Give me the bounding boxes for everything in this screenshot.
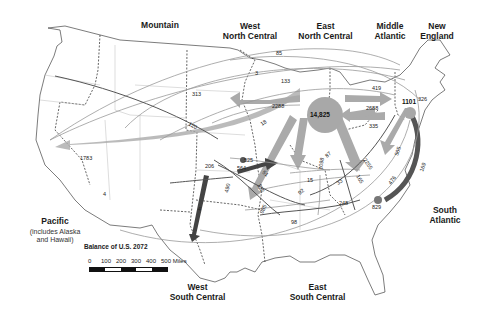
flow-label: 4 [103,191,106,197]
region-label-west-south-central: West South Central [160,282,235,302]
hub-label-ma: 1101 [402,98,416,105]
scale-tick: 100 [101,258,111,264]
scale-bar-segments [89,267,168,272]
flow-label: 133 [281,78,290,84]
minor-flow-lines [50,49,420,243]
region-label-new-england: New England [412,21,462,41]
flow-label: 476 [387,175,397,186]
flow-label: 87 [324,150,333,159]
flow-label: 120 [188,121,199,131]
flow-label: 335 [369,123,378,129]
flow-label: 3 [255,70,258,76]
region-label-east-south-central: East South Central [280,282,355,302]
flow-label: 525 [244,157,253,163]
region-label-mountain: Mountain [130,20,190,30]
region-label-south-atlantic: South Atlantic [420,205,470,225]
region-label-east-north-central: East North Central [288,21,363,41]
region-label-middle-atlantic: Middle Atlantic [365,21,415,41]
flow-label: 326 [418,96,427,102]
hub-label-enc: 14,825 [310,111,330,119]
flow-label: 15 [307,177,313,183]
hub-south-atlantic [374,196,382,204]
flow-label: 2288 [272,103,284,109]
flow-label: 2688 [366,105,378,111]
flow-label: 85 [276,50,282,56]
flow-label: 4 [198,206,201,212]
flow-label: 98 [291,219,297,225]
scale-tick: 0 [88,258,91,264]
ma-to-sa-arc [385,113,418,200]
flow-label: 1098 [317,157,325,170]
flow-label: 2255 [362,157,374,170]
flow-label: 248 [339,200,348,206]
hub-middle-atlantic [404,107,416,119]
flow-label: 419 [372,85,381,91]
scale-bar: 0 100 200 300 400 500 Miles [88,258,228,278]
scale-tick: 200 [116,258,126,264]
hub-label-sa: 829 [372,204,381,210]
region-label-pacific: Pacific [25,216,85,226]
flow-label: 1783 [80,155,92,161]
scale-tick: 400 [146,258,156,264]
flow-label: 505 [393,146,402,157]
flow-label: 313 [192,91,201,97]
scale-tick: 300 [131,258,141,264]
region-label-west-north-central: West North Central [215,21,285,41]
flow-label: 206 [205,163,214,169]
migration-map: 14,825 1101 564 829 1783 2288 2688 326 3… [0,0,477,313]
flow-label: 169 [418,162,427,173]
flow-label: 92 [297,187,306,196]
region-note-pacific: (includes Alaska and Hawaii) [20,228,90,244]
scale-tick: 500 Miles [161,258,187,264]
hub-label-wsc: 564 [237,165,246,171]
flow-label: 490 [223,183,231,193]
balance-note: Balance of U.S. 2072 [84,243,148,250]
flow-label: 18 [259,118,267,126]
